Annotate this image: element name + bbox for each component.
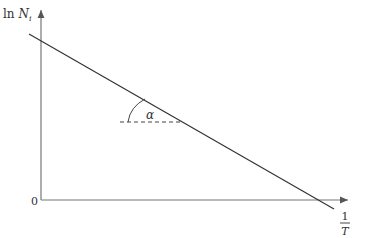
y-axis-label: ln Ni (3, 7, 32, 23)
x-axis-label-numerator: 1 (342, 210, 349, 223)
regression-line (29, 34, 334, 209)
ln-n-vs-inverse-t-diagram: α ln Ni 0 1 T (0, 0, 367, 238)
y-axis-label-prefix: ln (3, 7, 18, 21)
y-axis-label-sub: i (29, 14, 32, 23)
x-axis-label-denominator: T (341, 225, 350, 238)
y-axis-label-var: N (17, 7, 29, 21)
angle-arc (128, 99, 145, 122)
angle-label: α (146, 108, 154, 122)
origin-label: 0 (31, 195, 38, 208)
